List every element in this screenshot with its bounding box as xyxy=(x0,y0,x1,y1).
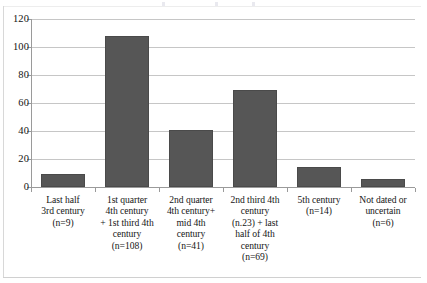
x-category-label-line: half of 4th xyxy=(224,228,286,239)
x-category-label-line: 4th century+ xyxy=(160,205,222,216)
y-tick-label-60: 60 xyxy=(3,98,29,108)
x-category-label-line: (n=6) xyxy=(352,217,414,228)
x-axis-category-labels: Last half3rd century(n=9)1st quarter4th … xyxy=(31,194,415,280)
x-category-label-6: Not dated oruncertain(n=6) xyxy=(351,194,415,280)
y-tick-label-20: 20 xyxy=(3,154,29,164)
x-tick-0 xyxy=(31,188,32,192)
scan-artifact-speck xyxy=(252,2,255,6)
x-category-label-line: uncertain xyxy=(352,205,414,216)
bar-1 xyxy=(41,174,85,187)
x-category-label-line: (n=108) xyxy=(96,240,158,251)
y-tick-label-0: 0 xyxy=(3,182,29,192)
x-category-label-line: Last half xyxy=(32,194,94,205)
y-tick-label-40: 40 xyxy=(3,126,29,136)
x-category-label-2: 1st quarter4th century+ 1st third 4thcen… xyxy=(95,194,159,280)
x-category-label-1: Last half3rd century(n=9) xyxy=(31,194,95,280)
y-tick-label-100: 100 xyxy=(3,42,29,52)
x-category-label-line: 1st quarter xyxy=(96,194,158,205)
x-category-label-line: century xyxy=(96,228,158,239)
bar-3 xyxy=(169,130,213,187)
y-tick-label-80: 80 xyxy=(3,70,29,80)
bar-5 xyxy=(297,167,341,187)
x-category-label-line: + 1st third 4th xyxy=(96,217,158,228)
x-category-label-4: 2nd third 4thcentury(n.23) + lasthalf of… xyxy=(223,194,287,280)
x-category-label-line: (n=14) xyxy=(288,205,350,216)
x-category-label-line: (n=41) xyxy=(160,240,222,251)
x-category-label-line: 2nd third 4th xyxy=(224,194,286,205)
x-category-label-line: century xyxy=(224,205,286,216)
bar-4 xyxy=(233,90,277,187)
x-category-label-line: mid 4th xyxy=(160,217,222,228)
x-tick-3 xyxy=(223,188,224,192)
x-tick-1 xyxy=(95,188,96,192)
x-category-label-line: (n=9) xyxy=(32,217,94,228)
x-tick-6 xyxy=(415,188,416,192)
x-category-label-line: (n=69) xyxy=(224,251,286,262)
x-category-label-line: century xyxy=(224,240,286,251)
scan-artifact-speck xyxy=(162,2,165,6)
y-tick-label-120: 120 xyxy=(3,14,29,24)
x-category-label-line: 3rd century xyxy=(32,205,94,216)
bar-2 xyxy=(105,36,149,187)
x-category-label-line: (n.23) + last xyxy=(224,217,286,228)
x-category-label-line: 4th century xyxy=(96,205,158,216)
bar-6 xyxy=(361,179,405,187)
x-category-label-5: 5th century(n=14) xyxy=(287,194,351,280)
x-category-label-line: century xyxy=(160,228,222,239)
x-category-label-line: 5th century xyxy=(288,194,350,205)
x-tick-4 xyxy=(287,188,288,192)
scan-artifact-speck xyxy=(215,2,218,6)
figure-frame-top-border xyxy=(3,6,421,7)
x-category-label-3: 2nd quarter4th century+mid 4thcentury(n=… xyxy=(159,194,223,280)
x-tick-2 xyxy=(159,188,160,192)
y-axis-tick-labels: 020406080100120 xyxy=(0,0,29,283)
x-category-label-line: 2nd quarter xyxy=(160,194,222,205)
x-category-label-line: Not dated or xyxy=(352,194,414,205)
bar-chart-figure: 020406080100120 Last half3rd century(n=9… xyxy=(0,0,427,283)
bar-series xyxy=(31,19,415,187)
x-tick-5 xyxy=(351,188,352,192)
